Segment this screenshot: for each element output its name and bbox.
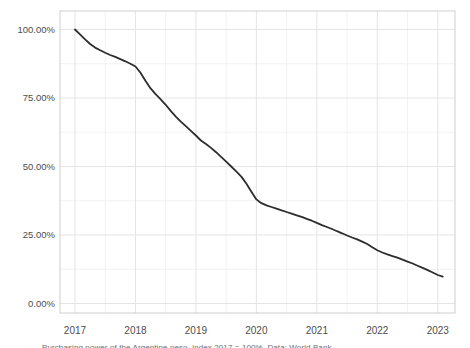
y-axis-tick-label: 100.00% [17, 24, 55, 35]
x-axis-tick-label: 2019 [185, 325, 208, 336]
x-axis-tick-label: 2022 [366, 325, 389, 336]
chart-figure: 0.00%25.00%50.00%75.00%100.00%2017201820… [0, 0, 470, 348]
plot-panel [60, 11, 455, 313]
y-axis-tick-label: 25.00% [23, 229, 56, 240]
x-axis-tick-label: 2017 [64, 325, 87, 336]
x-axis-tick-label: 2018 [124, 325, 147, 336]
y-axis-tick-label: 0.00% [28, 298, 55, 309]
x-axis-tick-label: 2021 [306, 325, 329, 336]
line-chart: 0.00%25.00%50.00%75.00%100.00%2017201820… [0, 0, 470, 348]
x-axis-tick-label: 2023 [427, 325, 450, 336]
y-axis-tick-label: 50.00% [23, 161, 56, 172]
x-axis-tick-label: 2020 [245, 325, 268, 336]
chart-caption: Purchasing power of the Argentine peso, … [42, 343, 462, 348]
y-axis-tick-label: 75.00% [23, 92, 56, 103]
